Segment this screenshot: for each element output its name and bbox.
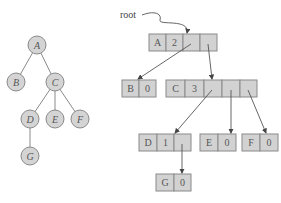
node-label: G xyxy=(26,151,33,162)
record-e: E 0 xyxy=(200,134,236,151)
record-d: D 1 xyxy=(139,134,191,151)
tree-node-b: B xyxy=(7,73,25,91)
node-label: E xyxy=(51,114,58,125)
record-name: E xyxy=(206,137,212,148)
tree-node-e: E xyxy=(46,110,64,128)
record-c: C 3 xyxy=(166,80,257,97)
general-tree: A B C D E F G xyxy=(7,36,89,165)
tree-node-f: F xyxy=(71,110,89,128)
record-name: C xyxy=(172,83,179,94)
record-name: G xyxy=(161,177,168,188)
node-label: B xyxy=(13,77,19,88)
pointer-representation: root A 2 B 0 C 3 xyxy=(120,9,278,191)
record-count: 2 xyxy=(172,37,177,48)
record-name: D xyxy=(144,137,151,148)
record-count: 1 xyxy=(163,137,168,148)
node-label: D xyxy=(25,114,34,125)
record-count: 0 xyxy=(180,177,185,188)
tree-node-d: D xyxy=(21,110,39,128)
tree-node-a: A xyxy=(28,36,46,54)
tree-node-g: G xyxy=(21,147,39,165)
tree-node-c: C xyxy=(46,73,64,91)
record-a: A 2 xyxy=(149,34,217,51)
tree-diagram: A B C D E F G root xyxy=(0,0,281,203)
node-label: C xyxy=(52,77,59,88)
record-name: A xyxy=(154,37,162,48)
record-count: 0 xyxy=(145,83,150,94)
record-g: G 0 xyxy=(156,174,191,191)
node-label: F xyxy=(76,114,84,125)
record-name: B xyxy=(127,83,134,94)
record-count: 3 xyxy=(192,83,197,94)
root-arrow xyxy=(142,13,187,33)
record-f: F 0 xyxy=(242,134,278,151)
node-label: A xyxy=(33,40,41,51)
record-b: B 0 xyxy=(122,80,156,97)
root-label: root xyxy=(120,9,136,20)
record-count: 0 xyxy=(225,137,230,148)
record-count: 0 xyxy=(267,137,272,148)
record-name: F xyxy=(248,137,254,148)
